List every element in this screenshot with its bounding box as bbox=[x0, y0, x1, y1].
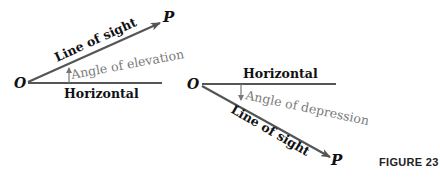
origin-label: O bbox=[187, 76, 200, 92]
elevation-diagram: O P Line of sight Angle of elevation Hor… bbox=[14, 8, 185, 101]
depression-diagram: O Horizontal P Angle of depression Line … bbox=[187, 66, 371, 169]
point-label: P bbox=[330, 151, 343, 169]
origin-label: O bbox=[14, 75, 27, 91]
figure-canvas: O P Line of sight Angle of elevation Hor… bbox=[0, 0, 440, 179]
point-label: P bbox=[162, 8, 175, 26]
horizontal-label: Horizontal bbox=[64, 86, 139, 101]
horizontal-label: Horizontal bbox=[243, 66, 318, 81]
figure-caption: FIGURE 23 bbox=[379, 156, 439, 168]
